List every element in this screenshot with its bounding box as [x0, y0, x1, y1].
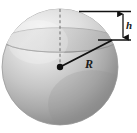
figure-canvas: h R: [0, 0, 137, 133]
center-point-dot: [57, 64, 63, 70]
radius-label: R: [84, 57, 93, 71]
sphere-cap-figure: h R: [0, 0, 137, 133]
cap-height-label: h: [126, 19, 132, 31]
